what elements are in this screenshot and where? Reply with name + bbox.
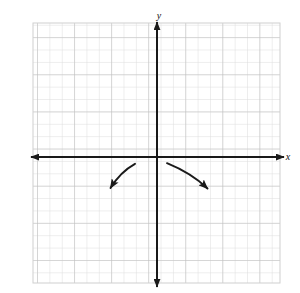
coordinate-plane-graph: x y: [0, 0, 300, 293]
x-axis-label: x: [285, 151, 291, 162]
y-axis-label: y: [156, 10, 162, 21]
